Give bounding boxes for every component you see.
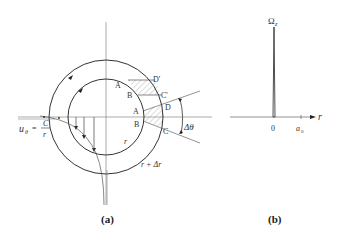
label-zero: 0 xyxy=(271,124,275,133)
svg-text:θ: θ xyxy=(25,129,28,135)
r-axis-arrow-icon xyxy=(310,115,316,119)
label-delta-theta: Δθ xyxy=(183,122,194,132)
caption-b: (b) xyxy=(268,213,282,226)
svg-text:C: C xyxy=(43,119,49,128)
label-r-axis: r xyxy=(318,111,322,122)
svg-text:=: = xyxy=(32,124,37,133)
label-omega: Ω xyxy=(268,16,275,26)
label-A-mid: A xyxy=(133,107,139,116)
label-r: r xyxy=(124,137,128,146)
velocity-profile xyxy=(76,117,94,150)
label-D-prime: D' xyxy=(153,75,161,84)
arrow-outer-icon xyxy=(68,75,73,80)
velocity-arrow-2-icon xyxy=(82,135,86,139)
label-A-top: A xyxy=(115,81,121,90)
label-a0: a xyxy=(296,124,300,133)
label-B-mid: B xyxy=(134,120,139,129)
svg-text:u: u xyxy=(19,123,24,134)
diagram-canvas: A B D' C' A B D C Δθ r r + Δr u θ = C r … xyxy=(0,0,339,244)
velocity-curve xyxy=(40,116,104,205)
arrow-delta-theta-bottom-icon xyxy=(179,130,183,134)
velocity-formula: u θ = C r xyxy=(19,119,50,139)
delta-theta-arc xyxy=(180,99,183,134)
label-D: D xyxy=(165,103,171,112)
label-a0-sub: 0 xyxy=(301,129,304,134)
arrow-delta-theta-top-icon xyxy=(178,98,182,102)
label-omega-sub: z xyxy=(274,21,278,27)
panel-a: A B D' C' A B D C Δθ r r + Δr u θ = C r … xyxy=(18,22,212,226)
label-C-prime: C' xyxy=(161,91,168,100)
label-r-plus-dr: r + Δr xyxy=(141,160,162,169)
vorticity-spike xyxy=(273,27,275,117)
caption-a: (a) xyxy=(101,213,114,226)
label-C: C xyxy=(163,127,168,136)
label-B-top: B xyxy=(127,91,132,100)
svg-text:r: r xyxy=(43,130,47,139)
panel-b: Ω z r 0 a 0 (b) xyxy=(230,16,322,226)
